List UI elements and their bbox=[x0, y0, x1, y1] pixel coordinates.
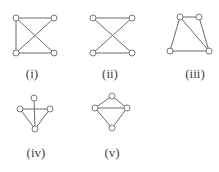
graph-iv: (iv) bbox=[17, 95, 53, 160]
graph-vertex bbox=[109, 93, 115, 99]
graph-vertex bbox=[47, 106, 53, 112]
graph-vertex bbox=[129, 15, 135, 21]
graph-vertex bbox=[92, 105, 98, 111]
graph-edge bbox=[20, 109, 35, 129]
graph-vertex bbox=[32, 126, 38, 132]
graph-edge bbox=[112, 108, 127, 128]
graph-vertex bbox=[129, 50, 135, 56]
graph-v: (v) bbox=[92, 93, 130, 160]
graph-vertex bbox=[177, 14, 183, 20]
graph-vertex bbox=[90, 15, 96, 21]
graph-ii: (ii) bbox=[90, 15, 135, 81]
graph-vertex bbox=[31, 95, 37, 101]
graph-vertex bbox=[167, 48, 173, 54]
graph-vertex bbox=[13, 50, 19, 56]
graph-label: (ii) bbox=[102, 66, 118, 81]
graph-vertex bbox=[196, 14, 202, 20]
graph-vertex bbox=[206, 48, 212, 54]
graph-label: (iv) bbox=[27, 145, 46, 160]
graph-iii: (iii) bbox=[167, 14, 212, 81]
graph-edge bbox=[95, 108, 112, 128]
graph-edge bbox=[180, 17, 209, 51]
graph-i: (i) bbox=[13, 15, 57, 81]
graph-vertex bbox=[17, 106, 23, 112]
graphs-figure: (i) (ii) (iii) (iv) (v) bbox=[0, 0, 219, 172]
graph-vertex bbox=[51, 15, 57, 21]
graph-vertex bbox=[51, 50, 57, 56]
graph-edge bbox=[170, 17, 180, 51]
graph-label: (i) bbox=[26, 66, 38, 81]
graph-edge bbox=[34, 98, 35, 129]
graph-vertex bbox=[13, 15, 19, 21]
graph-edge bbox=[35, 109, 50, 129]
graph-vertex bbox=[109, 125, 115, 131]
graph-vertex bbox=[90, 50, 96, 56]
graph-label: (v) bbox=[104, 145, 119, 160]
graph-label: (iii) bbox=[185, 66, 205, 81]
graph-vertex bbox=[124, 105, 130, 111]
